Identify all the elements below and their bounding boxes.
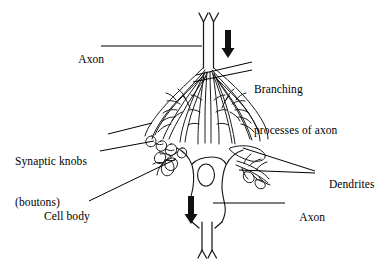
- axon-bottom-fork-right: [212, 250, 217, 258]
- neuron-diagram-figure: Axon Branching processes of axon Synapti…: [0, 0, 382, 263]
- leader-branching-b: [193, 70, 252, 82]
- axon-bottom-hillock-right: [215, 222, 222, 228]
- axon-top-fork-right: [214, 13, 219, 22]
- axon-top-wall-right: [210, 13, 214, 68]
- flow-arrow-bottom-head: [185, 214, 198, 224]
- leader-branching-a: [196, 62, 252, 75]
- terminal-fiber-c1: [205, 72, 207, 143]
- soma-outline-top: [192, 157, 226, 164]
- terminal-fiber-c2: [210, 72, 211, 143]
- label-branching-line2: processes of axon: [254, 124, 337, 138]
- flow-arrow-top-head: [222, 48, 235, 58]
- flow-arrow-top-shaft: [225, 30, 231, 49]
- axon-top-group: [199, 13, 219, 68]
- label-axon-top: Axon: [67, 39, 104, 80]
- soma-outline-right: [222, 150, 243, 222]
- axon-bottom-fork-left: [202, 250, 207, 258]
- flare-outline-left: [145, 68, 203, 136]
- terminal-fiber-c4: [213, 74, 219, 144]
- leader-synaptic-b: [100, 141, 154, 151]
- dendrite-l-twig-1: [160, 154, 172, 156]
- axon-bottom-wall-right: [208, 222, 212, 258]
- leader-synaptic-a: [108, 123, 152, 134]
- label-synaptic-line1: Synaptic knobs: [15, 155, 87, 169]
- flow-arrow-bottom-shaft: [188, 196, 194, 215]
- axon-bottom-hillock-left: [192, 222, 199, 228]
- axon-bottom-group: [192, 222, 222, 258]
- label-axon-bottom-text: Axon: [299, 211, 325, 223]
- label-cell-body: Cell body: [32, 196, 90, 237]
- axon-top-wall-left: [199, 13, 204, 68]
- flow-arrow-top: [222, 30, 235, 58]
- label-dendrites: Dendrites: [317, 164, 375, 205]
- bouton-stem-2: [166, 149, 174, 151]
- label-dendrites-text: Dendrites: [329, 178, 375, 190]
- label-branching-line1: Branching: [254, 83, 337, 97]
- flow-arrow-bottom: [185, 196, 198, 224]
- axon-top-fork-left: [204, 13, 209, 22]
- label-axon-bottom: Axon: [288, 197, 325, 238]
- label-branching-processes: Branching processes of axon: [254, 56, 337, 164]
- flare-outline-left-inner: [152, 70, 205, 139]
- twig-c3: [189, 110, 200, 112]
- leader-cellbody: [89, 159, 176, 201]
- dendrite-r-twig-5: [244, 154, 251, 163]
- nucleus: [198, 164, 215, 186]
- dendrite-r-lobe-1: [243, 172, 254, 183]
- label-axon-top-text: Axon: [78, 53, 104, 65]
- label-cell-body-text: Cell body: [44, 210, 90, 222]
- twig-c5: [188, 123, 199, 125]
